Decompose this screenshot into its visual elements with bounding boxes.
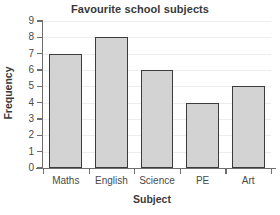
y-axis-tick-label: 5 — [20, 81, 34, 91]
y-axis-tick-mark — [37, 118, 43, 119]
x-axis-tick-label-art: Art — [225, 175, 271, 186]
y-axis-tick-label: 1 — [20, 147, 34, 157]
y-axis-tick-label: 6 — [20, 65, 34, 75]
y-axis-tick-label: 9 — [20, 16, 34, 26]
bar-pe — [186, 103, 219, 168]
chart-title: Favourite school subjects — [0, 3, 280, 15]
bar-art — [232, 86, 265, 168]
bar-chart: Favourite school subjects Frequency Subj… — [0, 0, 280, 215]
y-axis-tick-mark — [37, 135, 43, 136]
bar-english — [95, 37, 128, 168]
x-axis-tick-label-maths: Maths — [43, 175, 89, 186]
y-axis-tick-label: 8 — [20, 32, 34, 42]
x-axis-title: Subject — [28, 193, 276, 205]
y-axis-tick-label: 2 — [20, 130, 34, 140]
y-axis-tick-mark — [37, 37, 43, 38]
y-axis-tick-label: 7 — [20, 49, 34, 59]
x-axis-tick-mark — [43, 169, 44, 174]
x-axis-tick-label-science: Science — [134, 175, 180, 186]
y-axis-tick-label: 0 — [20, 163, 34, 173]
x-axis-tick-mark — [180, 169, 181, 174]
y-axis-tick-label: 4 — [20, 98, 34, 108]
y-axis-tick-mark — [37, 86, 43, 87]
x-axis-tick-mark — [89, 169, 90, 174]
y-axis-title-container: Frequency — [0, 18, 16, 168]
y-axis-tick-mark — [37, 53, 43, 54]
x-axis-tick-mark — [225, 169, 226, 174]
bar-science — [141, 70, 174, 168]
gridline — [43, 21, 271, 22]
y-axis-tick-label: 3 — [20, 114, 34, 124]
x-axis-tick-mark — [271, 169, 272, 174]
x-axis-tick-label-english: English — [89, 175, 135, 186]
y-axis-line — [42, 20, 43, 169]
gridline — [43, 37, 271, 38]
y-axis-tick-mark — [37, 69, 43, 70]
y-axis-tick-mark — [37, 151, 43, 152]
x-axis-tick-mark — [134, 169, 135, 174]
bar-maths — [49, 54, 82, 168]
y-axis-title: Frequency — [2, 66, 14, 119]
x-axis-tick-label-pe: PE — [180, 175, 226, 186]
y-axis-tick-mark — [37, 102, 43, 103]
y-axis-tick-mark — [37, 20, 43, 21]
